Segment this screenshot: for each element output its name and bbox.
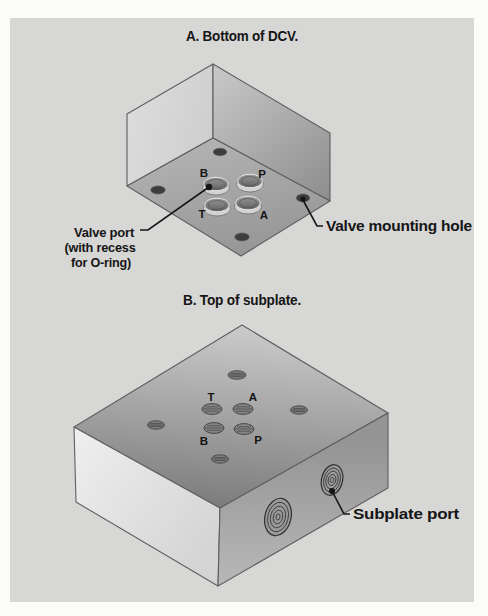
subplate-port-label-t: T xyxy=(207,391,214,403)
valve-mounting-hole-left xyxy=(151,186,166,194)
subplate-figure: B. Top of subplate. xyxy=(74,291,460,586)
subplate-mounting-hole-right xyxy=(291,406,308,414)
valve-port-callout-line2: (with recess xyxy=(65,241,136,255)
subplate-mounting-hole-top xyxy=(228,371,246,380)
subplate-port-label-a: A xyxy=(249,391,257,403)
valve-port-a xyxy=(235,196,262,214)
valve-mounting-hole-callout: Valve mounting hole xyxy=(326,218,472,234)
dcv-port-label-p: P xyxy=(258,168,266,180)
subplate-port-a xyxy=(233,404,253,415)
subplate-port-b xyxy=(204,423,224,434)
dcv-port-label-a: A xyxy=(260,209,268,221)
figure-a-title: A. Bottom of DCV. xyxy=(186,27,298,44)
subplate-port-callout: Subplate port xyxy=(353,506,460,522)
dcv-port-label-t: T xyxy=(198,208,205,220)
dcv-figure: A. Bottom of DCV. xyxy=(65,27,473,270)
subplate-port-p xyxy=(234,424,254,435)
valve-port-callout-line1: Valve port xyxy=(74,226,135,240)
valve-mounting-hole-bottom xyxy=(235,233,250,241)
valve-port-t xyxy=(204,198,231,216)
figure-canvas: A. Bottom of DCV. xyxy=(0,0,488,616)
subplate-mounting-hole-bottom xyxy=(212,455,229,463)
subplate-mounting-hole-left xyxy=(148,421,165,429)
subplate-port-label-b: B xyxy=(200,435,208,447)
valve-mounting-hole-top xyxy=(213,148,227,156)
valve-port-callout-line3: for O-ring) xyxy=(71,256,131,270)
valve-port-leader-dot xyxy=(206,184,212,190)
figure-b-title: B. Top of subplate. xyxy=(183,291,301,308)
subplate-port-t xyxy=(202,404,222,415)
subplate-port-label-p: P xyxy=(254,434,262,446)
page-background: A. Bottom of DCV. xyxy=(0,0,488,616)
dcv-port-label-b: B xyxy=(200,167,208,179)
